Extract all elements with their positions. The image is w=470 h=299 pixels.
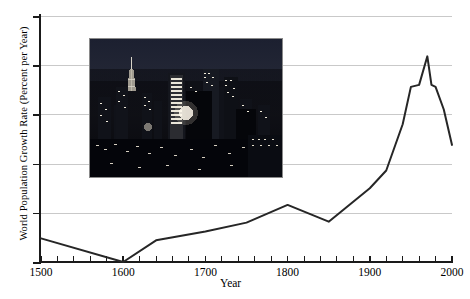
night-city-skyline-photo bbox=[89, 38, 283, 178]
x-tick-mark-minor bbox=[419, 256, 420, 261]
x-tick-label: 1800 bbox=[276, 266, 299, 278]
x-tick-mark-minor bbox=[271, 256, 272, 261]
x-tick-mark-minor bbox=[188, 256, 189, 261]
x-tick-mark-minor bbox=[238, 256, 239, 261]
x-tick-mark-major bbox=[451, 256, 453, 263]
y-axis-title: World Population Growth Rate (Percent pe… bbox=[18, 4, 29, 264]
x-tick-mark-minor bbox=[73, 256, 74, 261]
x-tick-mark-minor bbox=[139, 256, 140, 261]
x-tick-mark-minor bbox=[320, 256, 321, 261]
y-tick-mark bbox=[33, 65, 39, 67]
x-tick-mark-minor bbox=[106, 256, 107, 261]
x-tick-mark-major bbox=[122, 256, 124, 263]
x-tick-label: 1900 bbox=[358, 266, 381, 278]
x-tick-mark-minor bbox=[353, 256, 354, 261]
x-tick-mark-major bbox=[205, 256, 207, 263]
gridline-0.5 bbox=[41, 213, 452, 214]
y-tick-mark bbox=[33, 262, 39, 264]
x-tick-mark-minor bbox=[172, 256, 173, 261]
x-tick-mark-minor bbox=[57, 256, 58, 261]
x-tick-mark-minor bbox=[156, 256, 157, 261]
x-tick-mark-minor bbox=[386, 256, 387, 261]
y-tick-mark bbox=[33, 213, 39, 215]
x-tick-label: 2000 bbox=[441, 266, 464, 278]
x-tick-label: 1500 bbox=[30, 266, 53, 278]
x-tick-mark-minor bbox=[402, 256, 403, 261]
y-tick-mark bbox=[33, 114, 39, 116]
x-tick-mark-major bbox=[40, 256, 42, 263]
x-tick-mark-minor bbox=[336, 256, 337, 261]
y-tick-mark bbox=[33, 16, 39, 18]
x-tick-mark-minor bbox=[90, 256, 91, 261]
x-tick-mark-minor bbox=[221, 256, 222, 261]
y-tick-mark bbox=[33, 164, 39, 166]
gridline-2.5 bbox=[41, 16, 452, 17]
x-tick-mark-major bbox=[369, 256, 371, 263]
x-tick-label: 1700 bbox=[194, 266, 217, 278]
x-tick-mark-minor bbox=[304, 256, 305, 261]
x-tick-mark-minor bbox=[435, 256, 436, 261]
chart-figure: World Population Growth Rate (Percent pe… bbox=[0, 0, 470, 299]
x-tick-mark-minor bbox=[254, 256, 255, 261]
x-tick-mark-major bbox=[287, 256, 289, 263]
x-tick-label: 1600 bbox=[112, 266, 135, 278]
x-axis-title: Year bbox=[220, 277, 241, 289]
